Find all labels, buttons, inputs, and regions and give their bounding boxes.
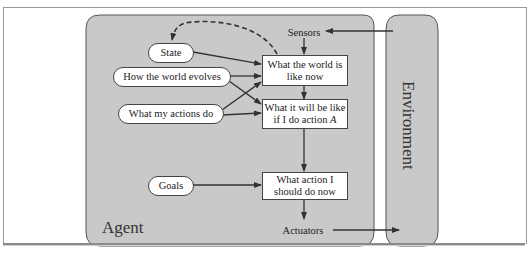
state-oval: State [148,43,194,63]
world-now-box: What the world is like now [262,55,348,86]
agent-label: Agent [102,218,144,238]
agent-panel [86,15,374,246]
diagram-canvas [0,0,529,262]
world-now-text: What the world is like now [263,59,347,83]
action-now-box: What action I should do now [262,172,348,200]
goals-oval: Goals [148,176,194,196]
sensors-label: Sensors [278,27,330,39]
will-be-like-text: What it will be like if I do action A [263,102,347,126]
actuators-label: Actuators [272,225,334,237]
world-evolves-oval: How the world evolves [113,67,231,87]
will-be-like-box: What it will be like if I do action A [262,99,348,129]
bottom-rule [3,243,525,246]
environment-label: Environment [398,60,418,190]
actions-do-oval: What my actions do [118,104,224,124]
action-now-text: What action I should do now [263,174,347,198]
